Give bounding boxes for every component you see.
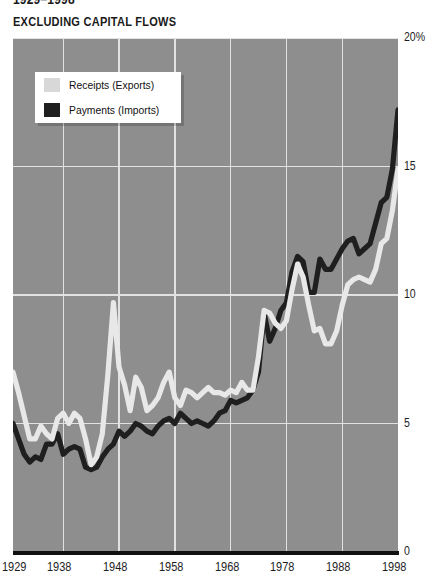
series-lines xyxy=(13,110,398,470)
x-tick-1998: 1998 xyxy=(382,560,406,574)
legend-label-payments: Payments (Imports) xyxy=(69,104,159,116)
legend-label-receipts: Receipts (Exports) xyxy=(69,79,154,91)
legend-item-payments: Payments (Imports) xyxy=(35,97,181,122)
y-tick-5: 5 xyxy=(404,416,410,430)
legend-item-receipts: Receipts (Exports) xyxy=(35,72,181,97)
light-swatch-icon xyxy=(44,78,60,92)
x-axis-rule xyxy=(13,551,399,555)
chart-subtitle: EXCLUDING CAPITAL FLOWS xyxy=(13,15,176,29)
y-tick-20: 20% xyxy=(404,30,425,44)
x-tick-1938: 1938 xyxy=(47,560,71,574)
x-tick-1958: 1958 xyxy=(159,560,183,574)
y-tick-15: 15 xyxy=(404,159,416,173)
x-tick-1978: 1978 xyxy=(270,560,294,574)
y-tick-0: 0 xyxy=(404,544,410,558)
x-tick-1988: 1988 xyxy=(326,560,350,574)
y-tick-10: 10 xyxy=(404,287,416,301)
chart-legend: Receipts (Exports) Payments (Imports) xyxy=(35,72,181,123)
chart-title: 1929–1998 xyxy=(13,0,75,7)
x-tick-1929: 1929 xyxy=(2,560,26,574)
dark-swatch-icon xyxy=(44,103,60,117)
x-tick-1968: 1968 xyxy=(215,560,239,574)
x-tick-1948: 1948 xyxy=(103,560,127,574)
